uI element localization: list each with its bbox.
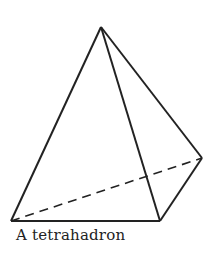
figure-caption: A tetrahadron <box>16 226 125 244</box>
edge-apex-right <box>101 27 202 158</box>
edge-apex-bottom-right <box>101 27 160 221</box>
tetrahedron-figure <box>0 0 217 256</box>
edge-apex-bottom-left <box>11 27 101 221</box>
hidden-edge-dashed <box>11 158 202 221</box>
edge-bottom-right-right <box>160 158 202 221</box>
